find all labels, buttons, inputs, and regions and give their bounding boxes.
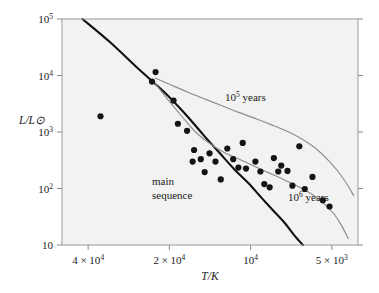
data-point — [230, 156, 236, 162]
data-point — [235, 164, 241, 170]
annotation-1e5-years: 105 years — [225, 90, 266, 103]
data-point — [206, 150, 212, 156]
data-point — [275, 168, 281, 174]
y-axis-title: L/L⊙ — [18, 114, 45, 126]
x-tick-label: 5 × 103 — [316, 253, 348, 266]
x-tick-label: 2 × 104 — [153, 253, 185, 266]
data-point — [212, 158, 218, 164]
y-tick-label: 10 — [42, 239, 54, 251]
data-point — [184, 128, 190, 134]
data-point — [284, 168, 290, 174]
data-point — [97, 113, 103, 119]
y-tick-label: 104 — [38, 69, 53, 82]
data-point — [309, 174, 315, 180]
x-tick-label: 104 — [243, 253, 258, 266]
data-point — [252, 158, 258, 164]
y-tick-label: 102 — [38, 182, 53, 195]
data-point — [289, 183, 295, 189]
chart-svg: 4 × 1042 × 1041045 × 10310510410310210 L… — [0, 0, 379, 293]
x-tick-label: 4 × 104 — [72, 253, 104, 266]
data-point — [240, 140, 246, 146]
data-point — [190, 158, 196, 164]
data-point — [170, 97, 176, 103]
x-axis-title: T/K — [201, 270, 220, 282]
data-point — [267, 184, 273, 190]
data-point — [296, 143, 302, 149]
y-tick-label: 103 — [38, 125, 53, 138]
data-point — [218, 176, 224, 182]
hr-diagram-figure: 4 × 1042 × 1041045 × 10310510410310210 L… — [0, 0, 379, 293]
annotation-1e6-years: 106 years — [288, 190, 329, 203]
plot-area-background — [62, 19, 358, 245]
data-point — [191, 147, 197, 153]
data-point — [152, 69, 158, 75]
data-point — [243, 166, 249, 172]
data-point — [202, 169, 208, 175]
data-point — [149, 79, 155, 85]
data-point — [261, 181, 267, 187]
y-tick-label: 105 — [38, 12, 53, 25]
data-point — [224, 145, 230, 151]
annotation-main-sequence-line2: sequence — [152, 189, 192, 201]
data-point — [271, 155, 277, 161]
data-point — [326, 203, 332, 209]
data-point — [257, 168, 263, 174]
data-point — [198, 156, 204, 162]
data-point — [175, 121, 181, 127]
annotation-main-sequence-line1: main — [152, 175, 174, 187]
data-point — [278, 162, 284, 168]
